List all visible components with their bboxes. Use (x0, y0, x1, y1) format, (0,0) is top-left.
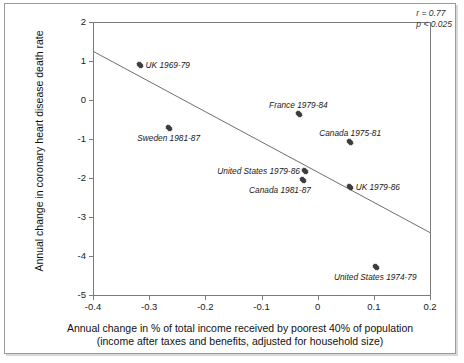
data-point-label: UK 1979-86 (356, 182, 400, 192)
y-axis-title: Annual change in coronary heart disease … (33, 26, 45, 276)
data-point-label: Canada 1975-81 (319, 128, 381, 138)
data-point-label: UK 1969-79 (146, 60, 190, 70)
x-axis-title: Annual change in % of total income recei… (40, 322, 440, 348)
data-point-label: France 1979-84 (269, 100, 328, 110)
data-point-label: Canada 1981-87 (249, 185, 311, 195)
x-axis-title-line1: Annual change in % of total income recei… (40, 322, 440, 335)
correlation-value: r = 0.77 (416, 8, 452, 19)
p-value: p < 0.025 (416, 19, 452, 30)
data-point-label: United States 1979-86 (217, 166, 300, 176)
stats-annotation: r = 0.77 p < 0.025 (416, 8, 452, 30)
x-axis-title-line2: (income after taxes and benefits, adjust… (40, 335, 440, 348)
data-point-label: United States 1974-79 (334, 272, 417, 282)
data-point-label: Sweden 1981-87 (137, 133, 200, 143)
figure-container: 210-1-2-3-4-5 -0.4-0.3-0.2-0.100.10.2 UK… (0, 0, 464, 363)
